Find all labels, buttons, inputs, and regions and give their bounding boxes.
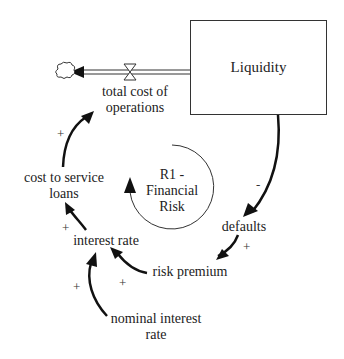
link-nominal-interestrate (89, 263, 107, 316)
var-nominal-interest-rate: nominal interest rate (104, 311, 208, 343)
var-interest-rate: interest rate (64, 233, 148, 249)
polarity-nominal-interestrate: + (73, 280, 80, 293)
arrowhead-icon (86, 252, 97, 267)
polarity-costservice-totalcost: + (57, 127, 64, 140)
valve-icon (124, 64, 136, 80)
var-label-line2: rate (104, 327, 208, 343)
var-defaults: defaults (216, 219, 272, 235)
stock-label: Liquidity (231, 59, 287, 76)
loop-label-line1: R1 - (140, 167, 204, 183)
var-cost-to-service-loans: cost to service loans (14, 170, 114, 202)
loop-label-line2: Financial (140, 183, 204, 199)
polarity-riskpremium-interestrate: + (119, 276, 126, 289)
var-label-line1: cost to service (14, 170, 114, 186)
link-riskpremium-interestrate (118, 254, 147, 273)
flow-label-line2: operations (85, 100, 185, 116)
polarity-liquidity-defaults: - (256, 178, 260, 191)
link-interestrate-costservice (70, 210, 86, 230)
loop-label-line3: Risk (140, 199, 204, 215)
flow-label-total-cost: total cost of operations (85, 84, 185, 116)
link-liquidity-defaults (252, 115, 279, 212)
link-costservice-totalcost (63, 117, 86, 167)
cloud-sink-icon (56, 62, 75, 78)
loop-arrowhead-icon (124, 177, 136, 193)
var-label-line1: nominal interest (104, 311, 208, 327)
stock-liquidity: Liquidity (190, 20, 327, 115)
flow-label-line1: total cost of (85, 84, 185, 100)
var-label-line2: loans (14, 186, 114, 202)
polarity-interestrate-costservice: + (62, 221, 69, 234)
loop-label: R1 - Financial Risk (140, 167, 204, 215)
polarity-defaults-riskpremium: + (243, 240, 250, 253)
var-risk-premium: risk premium (148, 264, 232, 280)
